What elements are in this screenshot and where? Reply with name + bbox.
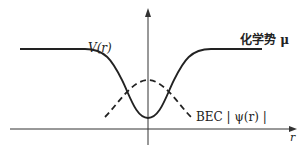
potential-label: V(r) — [88, 42, 112, 54]
bec-label: BEC | ψ(r) | — [196, 111, 267, 123]
diagram-svg — [0, 0, 307, 147]
x-axis-label: r — [290, 132, 295, 143]
potential-curve — [20, 49, 262, 118]
chemical-potential-label: 化学势 μ — [240, 34, 289, 46]
y-axis-arrow-icon — [145, 8, 151, 17]
diagram-canvas: V(r) 化学势 μ BEC | ψ(r) | r — [0, 0, 307, 147]
